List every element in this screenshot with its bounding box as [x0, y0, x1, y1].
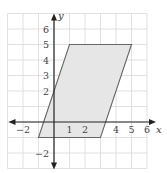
x-tick-label: 2 — [82, 124, 88, 135]
y-tick-label: 5 — [43, 39, 49, 50]
x-axis-label: x — [156, 124, 162, 135]
y-axis-up-arrow-icon — [51, 14, 57, 21]
x-tick-labels: −212456 — [16, 124, 150, 135]
coordinate-plane: −212456 65432−2 x y — [0, 0, 167, 173]
x-tick-label: 1 — [66, 124, 72, 135]
x-axis-right-arrow-icon — [149, 119, 156, 125]
x-tick-label: 6 — [144, 124, 150, 135]
y-tick-label: 3 — [43, 70, 49, 81]
y-axis-label: y — [57, 10, 64, 21]
y-tick-label: −2 — [35, 148, 49, 159]
x-tick-label: −2 — [16, 124, 30, 135]
x-tick-label: 4 — [113, 124, 119, 135]
y-tick-label: 6 — [43, 24, 49, 35]
x-tick-label: 5 — [128, 124, 134, 135]
x-axis-left-arrow-icon — [9, 119, 16, 125]
y-tick-label: 4 — [43, 55, 49, 66]
y-tick-label: 2 — [43, 86, 49, 97]
